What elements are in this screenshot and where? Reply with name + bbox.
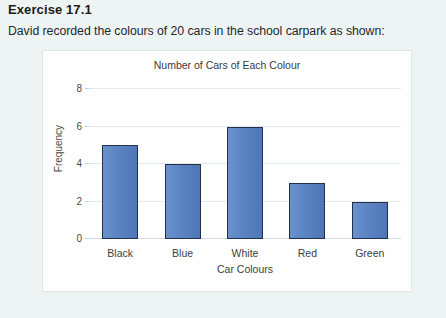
bar-red[interactable] — [289, 183, 325, 239]
bar-group-black: Black — [102, 89, 138, 239]
bar-series: BlackBlueWhiteRedGreen — [89, 89, 401, 239]
y-tick-label: 6 — [76, 120, 82, 131]
x-tick-label-red: Red — [298, 247, 317, 259]
bar-group-red: Red — [289, 89, 325, 239]
y-tick-label: 2 — [76, 195, 82, 206]
exercise-prompt: David recorded the colours of 20 cars in… — [8, 24, 385, 38]
bar-white[interactable] — [227, 127, 263, 240]
y-axis-label: Frequency — [53, 114, 64, 184]
page-title: Exercise 17.1 — [8, 2, 92, 17]
plot-area: 02468 BlackBlueWhiteRedGreen — [89, 89, 401, 239]
x-tick-label-green: Green — [355, 247, 384, 259]
bar-group-blue: Blue — [165, 89, 201, 239]
bar-group-green: Green — [352, 89, 388, 239]
y-tick-label: 0 — [76, 233, 82, 244]
bar-black[interactable] — [102, 145, 138, 239]
bar-group-white: White — [227, 89, 263, 239]
x-tick-label-white: White — [232, 247, 259, 259]
bar-blue[interactable] — [165, 164, 201, 239]
bar-green[interactable] — [352, 202, 388, 240]
x-tick-label-blue: Blue — [172, 247, 193, 259]
x-axis-label: Car Colours — [89, 263, 401, 275]
y-tick-label: 8 — [76, 83, 82, 94]
x-tick-label-black: Black — [107, 247, 133, 259]
chart-title: Number of Cars of Each Colour — [43, 59, 411, 71]
y-tick-label: 4 — [76, 158, 82, 169]
chart-panel: Number of Cars of Each Colour Frequency … — [42, 50, 412, 292]
